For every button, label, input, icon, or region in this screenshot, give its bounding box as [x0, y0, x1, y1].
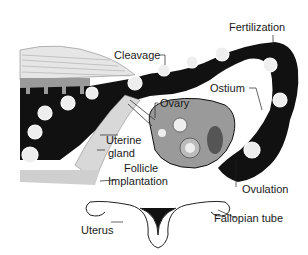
label-ostium: Ostium	[210, 82, 245, 94]
label-implantation: Implantation	[108, 175, 168, 187]
label-uterine-gland-line2: gland	[108, 147, 135, 159]
label-cleavage: Cleavage	[114, 49, 160, 61]
reproduction-diagram: Cleavage Fertilization Ostium Ovary Uter…	[0, 0, 308, 255]
label-follicle: Follicle	[124, 162, 158, 174]
label-uterus: Uterus	[81, 224, 113, 236]
label-uterine-gland-line1: Uterine	[106, 134, 141, 146]
label-fallopian-tube: Fallopian tube	[214, 212, 283, 224]
label-fertilization: Fertilization	[229, 21, 285, 33]
label-ovary: Ovary	[160, 97, 189, 109]
label-ovulation: Ovulation	[242, 183, 288, 195]
